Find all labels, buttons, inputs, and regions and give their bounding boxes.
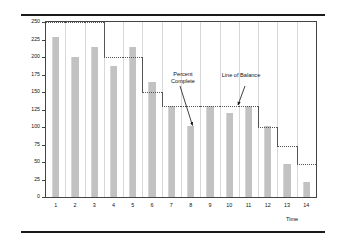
x-tick-label: 2 bbox=[65, 203, 85, 208]
bar bbox=[168, 106, 175, 197]
bar bbox=[206, 106, 213, 197]
lob-vertical-segment bbox=[162, 92, 163, 106]
lob-horizontal-segment bbox=[220, 106, 239, 107]
x-tick-label: 14 bbox=[296, 203, 316, 208]
lob-horizontal-segment bbox=[258, 127, 277, 128]
lob-horizontal-segment bbox=[46, 22, 65, 23]
x-axis-title: Time bbox=[286, 216, 298, 222]
lob-vertical-segment bbox=[277, 127, 278, 146]
gridline bbox=[65, 22, 66, 197]
x-tick-label: 10 bbox=[219, 203, 239, 208]
lob-horizontal-segment bbox=[162, 106, 181, 107]
y-tick-label: 75 bbox=[18, 142, 40, 147]
y-tick-label: 175 bbox=[18, 72, 40, 77]
lob-vertical-segment bbox=[297, 146, 298, 164]
x-tick-label: 13 bbox=[277, 203, 297, 208]
bar bbox=[226, 113, 233, 197]
y-tick-label: 50 bbox=[18, 159, 40, 164]
gridline bbox=[220, 22, 221, 197]
lob-vertical-segment bbox=[258, 106, 259, 127]
lob-vertical-segment bbox=[142, 57, 143, 92]
annotation-percent-complete-line1: Percent bbox=[162, 71, 204, 78]
bar bbox=[245, 106, 252, 197]
bar bbox=[110, 66, 117, 197]
chart-figure: Units of Production Time 025507510012515… bbox=[0, 0, 340, 242]
gridline bbox=[85, 22, 86, 197]
x-tick-label: 9 bbox=[200, 203, 220, 208]
bar bbox=[129, 47, 136, 198]
x-tick-label: 7 bbox=[161, 203, 181, 208]
bottom-divider-rule bbox=[21, 231, 325, 233]
lob-horizontal-segment bbox=[104, 57, 123, 58]
top-divider-rule bbox=[21, 14, 325, 16]
gridline bbox=[277, 22, 278, 197]
y-tick-label: 225 bbox=[18, 37, 40, 42]
gridline bbox=[162, 22, 163, 197]
y-tick-label: 125 bbox=[18, 107, 40, 112]
y-tick-label: 25 bbox=[18, 177, 40, 182]
lob-horizontal-segment bbox=[85, 22, 104, 23]
plot-area bbox=[45, 21, 317, 198]
lob-vertical-segment bbox=[104, 22, 105, 57]
gridline bbox=[181, 22, 182, 197]
x-tick-label: 6 bbox=[142, 203, 162, 208]
lob-horizontal-segment bbox=[142, 92, 161, 93]
plot-inner bbox=[46, 22, 316, 197]
lob-horizontal-segment bbox=[239, 106, 258, 107]
x-tick-label: 8 bbox=[181, 203, 201, 208]
x-tick-label: 12 bbox=[258, 203, 278, 208]
bar bbox=[71, 57, 78, 197]
x-tick-label: 3 bbox=[84, 203, 104, 208]
gridline bbox=[200, 22, 201, 197]
lob-horizontal-segment bbox=[277, 146, 296, 147]
bar bbox=[187, 126, 194, 197]
y-tick-label: 150 bbox=[18, 89, 40, 94]
y-tick-label: 200 bbox=[18, 54, 40, 59]
x-tick-label: 11 bbox=[239, 203, 259, 208]
annotation-percent-complete-line2: Complete bbox=[162, 78, 204, 85]
annotation-line-of-balance-line1: Line of Balance bbox=[215, 72, 267, 79]
lob-horizontal-segment bbox=[65, 22, 84, 23]
gridline bbox=[142, 22, 143, 197]
gridline bbox=[123, 22, 124, 197]
annotation-line-of-balance: Line of Balance bbox=[215, 72, 267, 79]
gridline bbox=[239, 22, 240, 197]
lob-horizontal-segment bbox=[297, 164, 316, 165]
lob-horizontal-segment bbox=[181, 106, 200, 107]
bar bbox=[264, 126, 271, 197]
gridline bbox=[297, 22, 298, 197]
bar bbox=[283, 164, 290, 197]
lob-horizontal-segment bbox=[123, 57, 142, 58]
annotation-percent-complete: Percent Complete bbox=[162, 71, 204, 85]
x-tick-label: 1 bbox=[46, 203, 66, 208]
y-tick-label: 0 bbox=[18, 194, 40, 199]
bar bbox=[91, 47, 98, 198]
x-tick-label: 4 bbox=[104, 203, 124, 208]
bar bbox=[148, 82, 155, 198]
y-tick-label: 100 bbox=[18, 124, 40, 129]
bar bbox=[52, 37, 59, 197]
x-tick-label: 5 bbox=[123, 203, 143, 208]
bar bbox=[303, 182, 310, 197]
y-tick-label: 250 bbox=[18, 19, 40, 24]
lob-horizontal-segment bbox=[200, 106, 219, 107]
